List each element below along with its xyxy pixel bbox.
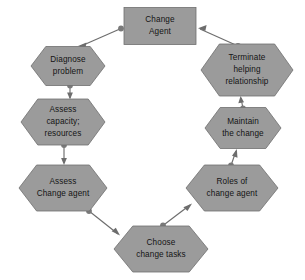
node-terminate-helping-relationship[interactable]: Terminate helping relationship — [201, 44, 293, 96]
connector-arrowhead — [232, 149, 238, 158]
node-diagnose-problem[interactable]: Diagnose problem — [31, 47, 105, 86]
node-choose-change-tasks[interactable]: Choose change tasks — [114, 226, 208, 272]
node-roles-of-change-agent[interactable]: Roles of change agent — [186, 165, 278, 211]
node-label-line-1: Change — [145, 15, 175, 24]
node-label-line-2: helping — [233, 65, 260, 74]
node-shape-hexagon — [114, 226, 208, 272]
connector-arrowhead — [112, 228, 120, 236]
node-label-line-3: relationship — [225, 77, 268, 86]
node-label-line-2: capacity; — [46, 117, 79, 126]
connector-choose-change-tasks-to-roles-of-change-agent — [160, 204, 192, 229]
node-label-line-2: Change agent — [37, 189, 90, 198]
node-shape-rectangle — [124, 8, 196, 45]
node-label-line-2: change tasks — [136, 250, 185, 259]
change-agent-cycle-diagram: Change Agent Diagnose problem Assess cap… — [0, 0, 305, 280]
node-label-line-1: Maintain — [227, 117, 259, 126]
node-label-line-1: Terminate — [229, 53, 266, 62]
connector-assess-change-agent-to-choose-change-tasks — [86, 208, 120, 236]
node-label-line-1: Assess — [50, 177, 77, 186]
node-label-line-1: Roles of — [217, 177, 248, 186]
node-label-line-1: Choose — [147, 238, 176, 247]
node-shape-hexagon — [19, 165, 107, 211]
node-label-line-1: Diagnose — [50, 55, 86, 64]
connector-arrowhead — [61, 158, 67, 165]
node-label-line-3: resources — [45, 129, 82, 138]
connector-change-agent-to-diagnose-problem — [78, 26, 124, 49]
connector-line — [200, 29, 238, 46]
node-assess-change-agent[interactable]: Assess Change agent — [19, 165, 107, 211]
node-shape-hexagon — [31, 47, 105, 86]
node-label-line-2: the change — [222, 129, 264, 138]
node-maintain-the-change[interactable]: Maintain the change — [205, 108, 281, 149]
connector-arrowhead — [238, 96, 244, 103]
connector-origin-dot — [118, 26, 124, 32]
node-label-line-2: problem — [53, 67, 83, 76]
node-label-line-1: Assess — [50, 105, 77, 114]
node-layer: Change Agent Diagnose problem Assess cap… — [19, 8, 293, 273]
connector-arrowhead — [67, 93, 73, 100]
diagram-canvas: Change Agent Diagnose problem Assess cap… — [0, 0, 305, 280]
node-assess-capacity-resources[interactable]: Assess capacity; resources — [21, 99, 105, 145]
node-label-line-2: Agent — [149, 27, 172, 36]
node-change-agent[interactable]: Change Agent — [124, 8, 196, 45]
node-shape-hexagon — [186, 165, 278, 211]
node-shape-hexagon — [205, 108, 281, 149]
connector-assess-capacity-to-assess-change-agent — [61, 142, 67, 165]
node-label-line-2: change agent — [207, 189, 258, 198]
connector-arrowhead — [183, 204, 192, 212]
